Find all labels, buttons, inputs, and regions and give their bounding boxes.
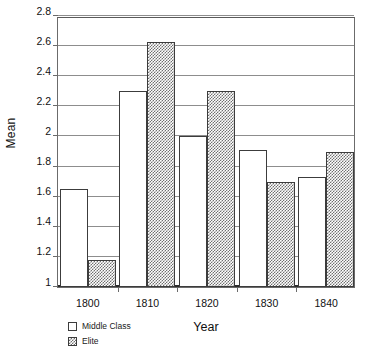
plot-area: 11.21.41.61.822.22.42.62.8 1800181018201… <box>57 17 355 288</box>
y-tick-label: 1.4 <box>36 216 58 227</box>
y-tick-label: 2.4 <box>36 65 58 76</box>
y-axis-title: Mean <box>4 98 18 168</box>
y-tick-label: 1 <box>45 276 58 287</box>
x-tick-label-1840: 1840 <box>315 297 338 309</box>
legend-item-elite: Elite <box>68 335 131 347</box>
x-tick-label-1830: 1830 <box>255 297 278 309</box>
y-tick-label: 2.8 <box>36 5 58 16</box>
bar-1810-middle-class <box>119 91 147 287</box>
bar-chart: Mean 11.21.41.61.822.22.42.62.8 18001810… <box>0 0 375 356</box>
bar-1800-middle-class <box>60 189 88 287</box>
bars-layer <box>58 18 354 287</box>
legend-label: Elite <box>82 336 99 346</box>
gridline <box>58 15 354 16</box>
bar-1800-elite <box>88 260 116 287</box>
x-tick-label-1800: 1800 <box>76 297 99 309</box>
legend-item-middle-class: Middle Class <box>68 320 131 332</box>
y-tick-label: 2.2 <box>36 96 58 107</box>
x-tick-mark <box>118 287 119 292</box>
bar-1840-middle-class <box>298 177 326 287</box>
y-tick-label: 1.8 <box>36 156 58 167</box>
y-tick-label: 2 <box>45 126 58 137</box>
bar-1820-elite <box>207 91 235 287</box>
bar-1830-middle-class <box>239 150 267 287</box>
legend-swatch-icon <box>68 337 77 346</box>
bar-1820-middle-class <box>179 136 207 287</box>
x-tick-label-1820: 1820 <box>195 297 218 309</box>
bar-1810-elite <box>147 42 175 287</box>
x-tick-label-1810: 1810 <box>136 297 159 309</box>
bar-1840-elite <box>326 152 354 288</box>
x-tick-mark <box>177 287 178 292</box>
legend-label: Middle Class <box>82 321 131 331</box>
chart-legend: Middle ClassElite <box>68 320 131 350</box>
y-tick-label: 2.6 <box>36 35 58 46</box>
bar-1830-elite <box>267 182 295 287</box>
x-tick-mark <box>237 287 238 292</box>
x-tick-mark <box>296 287 297 292</box>
y-tick-label: 1.6 <box>36 186 58 197</box>
y-tick-label: 1.2 <box>36 246 58 257</box>
legend-swatch-icon <box>68 322 77 331</box>
